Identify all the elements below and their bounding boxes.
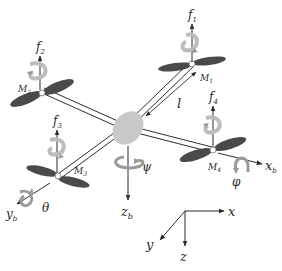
theta-rotation-icon	[20, 188, 34, 206]
hub-m2	[39, 90, 45, 96]
psi-rotation-icon	[116, 157, 143, 168]
quadrotor-body	[106, 105, 150, 151]
f3-label: f3	[52, 114, 62, 130]
xb-label: xb	[265, 158, 277, 175]
rotor-m2: f2 M2	[8, 40, 75, 110]
inertial-frame: x y z	[145, 204, 236, 264]
arm-length-arrow	[146, 72, 196, 116]
propeller-m3	[25, 163, 58, 179]
m1-label: M1	[199, 73, 213, 84]
f4-label: f4	[208, 90, 218, 106]
m3-label: M3	[73, 166, 87, 177]
propeller-m1	[158, 61, 193, 74]
zb-label: zb	[120, 204, 133, 221]
arm-m3	[58, 130, 121, 178]
hub-m4	[210, 147, 216, 153]
yb-label: yb	[5, 207, 18, 223]
m4-label: M4	[207, 162, 221, 173]
arm-length-label: l	[177, 96, 181, 111]
inertial-y-label: y	[145, 237, 154, 252]
theta-label: θ	[42, 201, 50, 215]
inertial-z-label: z	[179, 249, 187, 264]
rotation-arrow-m1	[183, 35, 198, 53]
phi-label: φ	[232, 175, 241, 189]
arm-m4	[137, 128, 212, 152]
rotation-arrow-m4	[203, 117, 220, 132]
f2-label: f2	[35, 40, 45, 56]
f1-label: f1	[187, 8, 197, 24]
phi-rotation-icon	[233, 158, 248, 174]
quadrotor-diagram: l ψ zb f1 M1 f2 M2	[0, 0, 282, 271]
hub-m3	[55, 173, 61, 179]
inertial-x-label: x	[228, 204, 236, 219]
psi-label: ψ	[142, 160, 152, 174]
inertial-y-axis	[160, 211, 185, 240]
rotation-arrow-m2	[27, 63, 46, 78]
rotor-m3: f3 M3	[25, 114, 90, 190]
m2-label: M2	[17, 84, 31, 95]
rotor-m1: f1 M1	[158, 8, 227, 84]
